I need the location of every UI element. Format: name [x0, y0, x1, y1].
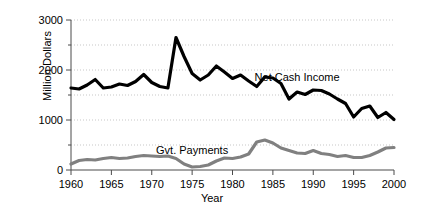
x-tick-label: 1985 [261, 178, 285, 190]
series-line [71, 140, 394, 167]
series-annotation-label: Gvt. Payments [156, 144, 229, 156]
series-line [71, 38, 394, 120]
x-tick-label: 1975 [180, 178, 204, 190]
chart-container: Million Dollars Year 0100020003000196019… [0, 0, 424, 213]
x-tick-label: 2000 [382, 178, 406, 190]
x-tick-label: 1990 [301, 178, 325, 190]
x-tick-label: 1995 [341, 178, 365, 190]
x-tick-label: 1980 [220, 178, 244, 190]
y-axis-label: Million Dollars [41, 6, 53, 126]
x-tick-label: 1960 [59, 178, 83, 190]
y-tick-label: 0 [57, 164, 63, 176]
series-annotation-label: Net Cash Income [255, 71, 340, 83]
line-chart-plot: 0100020003000196019651970197519801985199… [0, 0, 424, 213]
x-axis-label: Year [0, 192, 424, 204]
x-tick-label: 1970 [140, 178, 164, 190]
x-tick-label: 1965 [99, 178, 123, 190]
